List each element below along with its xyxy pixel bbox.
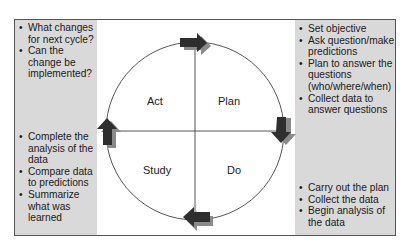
quadrant-label-do: Do bbox=[227, 164, 241, 176]
quadrant-label-plan: Plan bbox=[218, 95, 240, 107]
quadrant-label-act: Act bbox=[147, 95, 163, 107]
arrow-up-icon bbox=[97, 118, 121, 148]
arrow-right-icon bbox=[180, 33, 211, 55]
quadrant-label-study: Study bbox=[143, 164, 171, 176]
arrow-left-icon bbox=[183, 207, 213, 231]
cycle-diagram bbox=[0, 0, 408, 247]
